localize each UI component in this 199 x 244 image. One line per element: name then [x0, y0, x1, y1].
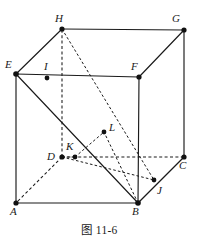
solid-edges-group: [16, 29, 184, 203]
label-F: F: [131, 61, 138, 72]
label-D: D: [47, 151, 55, 162]
label-K: K: [66, 141, 73, 152]
edge-B-F: [138, 77, 139, 203]
edge-B-C: [138, 157, 184, 203]
edge-E-B-diagonal: [16, 74, 138, 203]
label-A: A: [10, 206, 17, 217]
figure-container: E H G F I L D K C J A B 图 11-6: [0, 0, 199, 244]
dashed-edges-group: [16, 29, 184, 203]
point-F: [136, 74, 141, 79]
label-C: C: [179, 160, 186, 171]
edge-E-F: [16, 74, 139, 77]
point-D: [59, 154, 64, 159]
label-E: E: [5, 59, 12, 70]
label-L: L: [109, 122, 115, 133]
edge-K-L: [75, 132, 104, 157]
cube-diagram: [0, 0, 199, 244]
edge-D-J: [62, 157, 154, 180]
edge-F-G: [139, 30, 184, 77]
figure-caption: 图 11-6: [0, 221, 199, 237]
point-L: [102, 130, 107, 135]
edge-E-H: [16, 29, 62, 74]
edge-B-L: [104, 132, 138, 203]
point-H: [59, 26, 64, 31]
point-J: [152, 178, 157, 183]
point-G: [181, 27, 186, 32]
edge-D-A: [16, 157, 62, 203]
point-K: [73, 155, 78, 160]
label-I: I: [44, 61, 48, 72]
vertex-dots-group: [13, 26, 186, 205]
label-H: H: [55, 13, 63, 24]
point-I: [45, 76, 50, 81]
label-B: B: [132, 206, 139, 217]
label-G: G: [172, 13, 180, 24]
label-J: J: [157, 185, 162, 196]
edge-H-G: [62, 29, 184, 30]
point-E: [13, 71, 19, 77]
